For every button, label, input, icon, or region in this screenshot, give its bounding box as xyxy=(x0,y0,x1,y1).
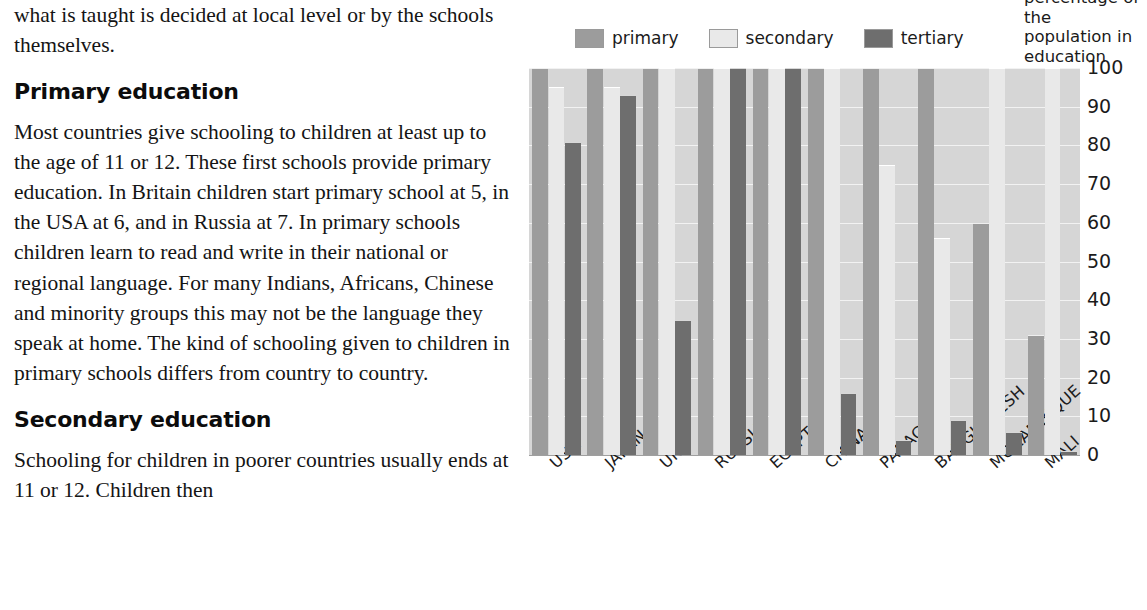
bar-uk-secondary xyxy=(659,68,675,455)
bar-china-secondary xyxy=(824,68,840,455)
bar-egypt-primary xyxy=(753,68,769,455)
y-tick-60: 60 xyxy=(1087,211,1141,233)
legend-item-tertiary[interactable]: tertiary xyxy=(864,28,964,48)
bar-mozambique-primary xyxy=(973,223,989,455)
bar-russia-primary xyxy=(698,68,714,455)
bar-russia-secondary xyxy=(714,68,730,455)
legend-item-secondary[interactable]: secondary xyxy=(709,28,834,48)
heading-primary-education: Primary education xyxy=(14,77,512,107)
bar-bangladesh-secondary xyxy=(934,238,950,455)
education-bar-chart: percentage of the population in educatio… xyxy=(512,0,1147,610)
y-tick-80: 80 xyxy=(1087,133,1141,155)
bar-egypt-secondary xyxy=(769,68,785,455)
y-tick-10: 10 xyxy=(1087,404,1141,426)
legend-swatch-secondary xyxy=(709,29,738,48)
y-tick-70: 70 xyxy=(1087,172,1141,194)
bar-bangladesh-primary xyxy=(918,68,934,455)
bar-japan-tertiary xyxy=(620,95,636,455)
legend-label-secondary: secondary xyxy=(746,28,834,48)
y-tick-100: 100 xyxy=(1087,56,1141,78)
bar-uk-primary xyxy=(643,68,659,455)
bar-usa-secondary xyxy=(549,87,565,455)
bar-china-tertiary xyxy=(841,393,857,455)
y-tick-40: 40 xyxy=(1087,288,1141,310)
x-axis-tick-labels: USAJAPANUKRUSSIAEGYPTCHINAPARAGUAYBANGLA… xyxy=(529,458,1089,568)
bar-paraguay-tertiary xyxy=(896,440,912,455)
legend-swatch-primary xyxy=(575,29,604,48)
bar-mozambique-secondary xyxy=(989,68,1005,455)
intro-paragraph: what is taught is decided at local level… xyxy=(14,0,512,60)
bar-russia-tertiary xyxy=(730,68,746,455)
bar-egypt-tertiary xyxy=(785,68,801,455)
bar-japan-secondary xyxy=(604,87,620,455)
paragraph-secondary-education: Schooling for children in poorer countri… xyxy=(14,445,512,505)
paragraph-primary-education: Most countries give schooling to childre… xyxy=(14,117,512,389)
legend-label-tertiary: tertiary xyxy=(901,28,964,48)
bar-mali-tertiary xyxy=(1061,451,1077,455)
bar-mali-primary xyxy=(1028,335,1044,455)
legend-label-primary: primary xyxy=(612,28,679,48)
y-tick-0: 0 xyxy=(1087,443,1141,465)
y-tick-30: 30 xyxy=(1087,327,1141,349)
bar-mozambique-tertiary xyxy=(1006,432,1022,455)
bar-uk-tertiary xyxy=(675,320,691,455)
y-axis-tick-labels: 0102030405060708090100 xyxy=(1087,58,1145,468)
bar-paraguay-secondary xyxy=(879,165,895,455)
bar-china-primary xyxy=(808,68,824,455)
bar-paraguay-primary xyxy=(863,68,879,455)
bar-mali-secondary xyxy=(1045,68,1061,455)
bar-usa-tertiary xyxy=(565,142,581,455)
heading-secondary-education: Secondary education xyxy=(14,405,512,435)
y-tick-20: 20 xyxy=(1087,366,1141,388)
bar-japan-primary xyxy=(587,68,603,455)
legend-item-primary[interactable]: primary xyxy=(575,28,679,48)
article-text-column: what is taught is decided at local level… xyxy=(14,0,512,610)
y-tick-50: 50 xyxy=(1087,250,1141,272)
bar-bangladesh-tertiary xyxy=(951,420,967,455)
y-tick-90: 90 xyxy=(1087,95,1141,117)
bar-usa-primary xyxy=(532,68,548,455)
chart-legend: primary secondary tertiary xyxy=(575,28,964,48)
plot-area xyxy=(529,68,1080,455)
legend-swatch-tertiary xyxy=(864,29,893,48)
